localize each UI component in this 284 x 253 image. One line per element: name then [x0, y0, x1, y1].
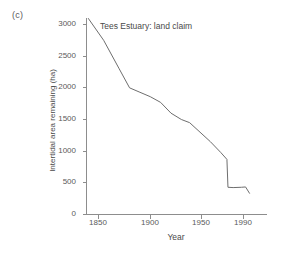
data-series-line	[88, 18, 250, 193]
x-axis	[87, 215, 268, 219]
y-axis-ticks	[83, 25, 87, 215]
x-axis-ticks	[99, 215, 244, 219]
figure-panel: (c) Tees Estuary: land claim Intertidal …	[0, 0, 284, 253]
plot-area	[0, 0, 284, 253]
y-axis	[83, 18, 87, 215]
